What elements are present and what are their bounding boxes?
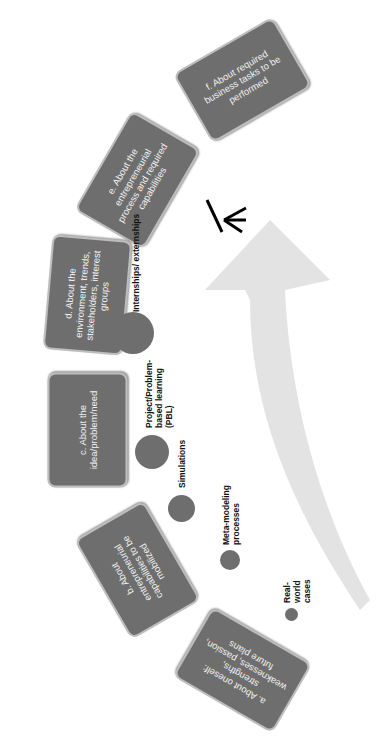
method-label-simulations: Simulations — [178, 440, 188, 488]
method-circle-simulations — [168, 495, 195, 522]
method-circle-pbl — [135, 435, 169, 469]
method-circle-real-world — [285, 608, 298, 621]
method-label-meta-modeling: Meta-modeling processes — [222, 485, 242, 545]
method-circle-meta-modeling — [220, 550, 240, 570]
box-c: c. About the idea/problem/need — [48, 373, 128, 488]
person-figure-icon — [207, 200, 246, 232]
method-label-real-world: Real-world cases — [283, 563, 312, 603]
method-label-pbl: Project/Problem-based learning (PBL) — [145, 348, 174, 428]
method-label-internships: Internships/ externships — [132, 214, 142, 312]
